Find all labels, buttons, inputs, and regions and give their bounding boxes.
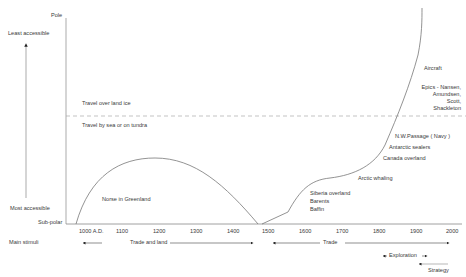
main-stimuli-label: Main stimuli (9, 240, 39, 246)
tick-1900: 1900 (410, 229, 422, 235)
exploration-label: Exploration (389, 253, 417, 259)
least-accessible-label: Least accessible (8, 31, 49, 37)
nw-passage-label: N.W.Passage ( Navy ) (395, 134, 450, 140)
tick-1800: 1800 (373, 229, 385, 235)
tick-1500: 1500 (262, 229, 274, 235)
siberia-label: Siberia overland (310, 191, 350, 197)
tick-1000: 1000 A.D. (79, 229, 104, 235)
pole-label: Pole (51, 13, 62, 19)
antarctic-label: Antarctic sealers (389, 145, 430, 151)
baffin-label: Baffin (310, 207, 324, 213)
sea-tundra-zone-label: Travel by sea or on tundra (82, 123, 147, 129)
strategy-label: Strategy (428, 268, 449, 274)
canada-label: Canada overland (383, 156, 426, 162)
land-ice-zone-label: Travel over land ice (82, 101, 131, 107)
tick-1700: 1700 (336, 229, 348, 235)
most-accessible-label: Most accessible (10, 206, 50, 212)
trade-and-land-label: Trade and land (130, 240, 167, 246)
norse-curve (76, 158, 258, 224)
epics-label-4: Shackleton (433, 106, 461, 112)
norse-label: Norse in Greenland (102, 197, 151, 203)
epics-label-1: Epics - Nansen, (422, 85, 461, 91)
trade-label: Trade (323, 240, 337, 246)
epics-label-3: Scott, (447, 99, 461, 105)
barents-label: Barents (310, 199, 329, 205)
tick-1300: 1300 (190, 229, 202, 235)
tick-1100: 1100 (116, 229, 128, 235)
tick-1200: 1200 (153, 229, 165, 235)
sub-polar-label: Sub-polar (38, 220, 62, 226)
tick-2000: 2000 (446, 229, 458, 235)
aircraft-label: Aircraft (424, 66, 442, 72)
tick-1600: 1600 (299, 229, 311, 235)
arctic-whaling-label: Arctic whaling (358, 176, 393, 182)
tick-1400: 1400 (227, 229, 239, 235)
epics-label-2: Amundsen, (433, 92, 461, 98)
